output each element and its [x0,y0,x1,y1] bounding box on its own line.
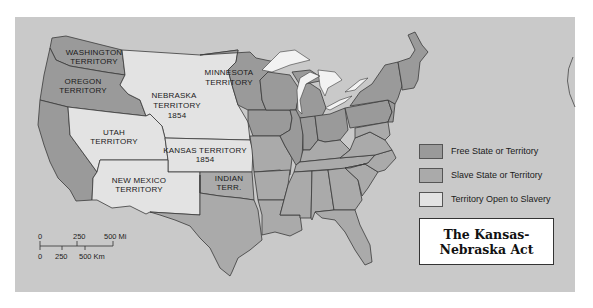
region-new-england [398,32,428,90]
label-minnesota-l1: MINNESOTA [205,68,254,77]
legend-label-open: Territory Open to Slavery [451,194,551,204]
open-swatch-icon [419,192,443,207]
region-florida [315,210,372,265]
label-washington-l2: TERRITORY [70,57,118,66]
label-indian-l2: TERR. [217,183,242,192]
label-minnesota-l2: TERRITORY [205,78,253,87]
legend-item-free: Free State or Territory [419,139,551,163]
label-new-mexico-l2: TERRITORY [115,185,163,194]
scale-km-500: 500 Km [79,252,105,261]
legend-item-open: Territory Open to Slavery [419,187,551,211]
scale-km-0: 0 [38,252,42,261]
region-iowa [248,110,292,136]
label-kansas-l1: KANSAS TERRITORY [163,146,247,155]
legend-item-slave: Slave State or Territory [419,163,551,187]
label-indian-l1: INDIAN [215,174,243,183]
map-title-box: The Kansas- Nebraska Act [419,218,554,265]
free-swatch-icon [419,144,443,159]
label-oregon-l1: OREGON [65,77,102,86]
label-utah-l1: UTAH [103,128,125,137]
label-nebraska-l2: TERRITORY [153,101,201,110]
label-utah-l2: TERRITORY [90,137,138,146]
label-new-mexico-l1: NEW MEXICO [112,176,166,185]
map-title-line-1: The Kansas- [443,227,529,242]
region-arkansas [254,170,290,200]
scale-bar: 0 250 500 Mi 0 250 500 Km [38,232,128,262]
label-kansas-l2: 1854 [196,155,215,164]
decorative-arc [563,55,577,110]
map-legend: Free State or Territory Slave State or T… [419,139,551,211]
slave-swatch-icon [419,168,443,183]
label-nebraska-l1: NEBRASKA [151,91,197,100]
label-oregon-l2: TERRITORY [59,86,107,95]
legend-label-slave: Slave State or Territory [451,170,542,180]
scale-km-250: 250 [55,252,68,261]
legend-label-free: Free State or Territory [451,146,538,156]
map-title-line-2: Nebraska Act [439,242,533,257]
label-washington-l1: WASHINGTON [66,48,123,57]
label-nebraska-l3: 1854 [168,111,187,120]
region-wisconsin [260,72,300,110]
